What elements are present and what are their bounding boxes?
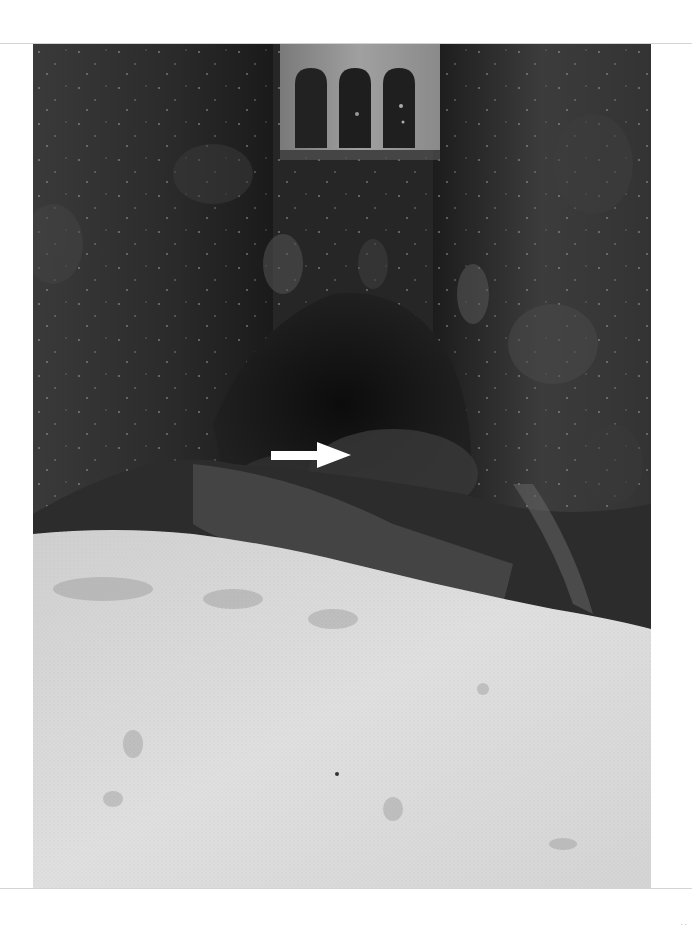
- bottom-rule: [0, 888, 692, 889]
- surgical-photo: [33, 44, 651, 888]
- retractor-illustration: [280, 44, 440, 160]
- page-number: ··: [680, 920, 688, 926]
